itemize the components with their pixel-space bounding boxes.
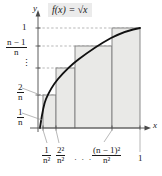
leader-x-22-n2 [56,130,59,143]
x-axis-horizontal-dots: · · · [74,154,93,164]
x-tick-label-n-minus-1-squared-over-n-squared-denominator: n² [92,155,121,165]
x-tick-label-2-squared-over-n-squared-numerator: 2² [56,146,65,155]
leader-2-over-n [22,88,43,96]
y-tick-label-1-over-n: 1 n [17,108,24,128]
leader-x-1-n2 [43,130,47,143]
x-tick-label-1-over-n-squared-numerator: 1 [42,146,51,155]
sqrt-riemann-sum-figure: f(x) = √x y x 1 n − 1 n ⋮ 2 n 1 n 1 n² 2… [0,0,162,176]
y-tick-label-2-over-n-numerator: 2 [17,83,24,92]
function-title-label: f(x) = √x [48,3,92,17]
x-tick-label-2-squared-over-n-squared-denominator: n² [56,155,65,165]
y-label-leader-lines [22,88,43,120]
y-tick-label-n-minus-1-over-n: n − 1 n [6,38,27,58]
x-tick-label-one: 1 [138,154,143,163]
x-tick-label-2-squared-over-n-squared: 2² n² [56,146,65,166]
x-axis-name: x [153,121,157,130]
y-tick-label-1: 1 [22,23,27,32]
y-tick-label-n-minus-1-over-n-numerator: n − 1 [6,38,27,47]
x-axis-arrowhead [145,126,152,131]
leader-x-n-1-2 [104,130,112,142]
y-axis-vertical-dots: ⋮ [22,62,31,65]
y-tick-label-1-over-n-numerator: 1 [17,108,24,117]
leader-1-over-n [22,113,42,120]
y-axis-vertical-dots-glyph: ⋮ [22,62,31,65]
y-tick-label-n-minus-1-over-n-denominator: n [6,47,27,57]
riemann-rect-4 [112,28,140,128]
y-tick-label-1-over-n-denominator: n [17,117,24,127]
x-tick-label-n-minus-1-squared-over-n-squared-numerator: (n − 1)² [92,146,121,155]
y-tick-label-2-over-n: 2 n [17,83,24,103]
x-tick-label-1-over-n-squared-denominator: n² [42,155,51,165]
x-tick-label-n-minus-1-squared-over-n-squared: (n − 1)² n² [92,146,121,166]
x-tick-label-1-over-n-squared: 1 n² [42,146,51,166]
riemann-rectangles [43,28,140,128]
y-tick-label-2-over-n-denominator: n [17,92,24,102]
y-axis-name: y [33,4,37,13]
